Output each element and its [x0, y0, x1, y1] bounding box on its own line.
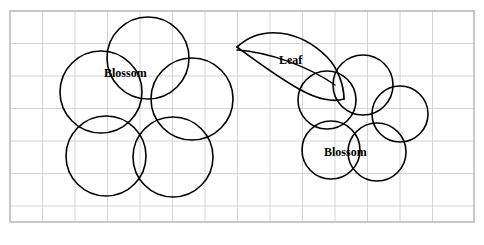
label-left-blossom: Blossom: [104, 66, 147, 81]
label-right-blossom: Blossom: [324, 145, 367, 160]
label-leaf: Leaf: [279, 53, 302, 68]
drawing-surface: [0, 0, 484, 245]
sketch-canvas: BlossomLeafBlossom: [0, 0, 484, 245]
